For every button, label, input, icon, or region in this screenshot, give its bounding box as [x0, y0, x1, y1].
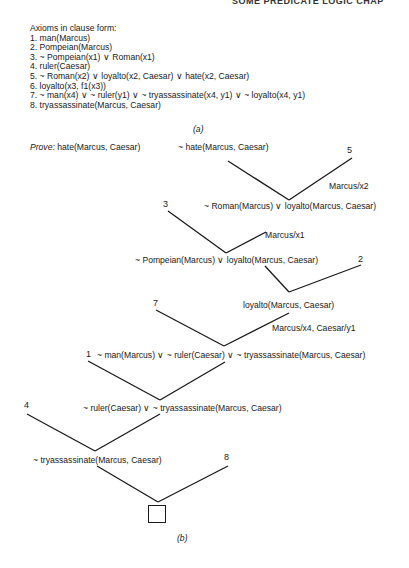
- caption-b: (b): [177, 533, 188, 543]
- node-step1: ~ Roman(Marcus) ∨ loyalto(Marcus, Caesar…: [204, 201, 376, 211]
- substitution-3: Marcus/x4, Caesar/y1: [272, 323, 356, 333]
- axiom-ref-2: 2: [358, 254, 363, 264]
- resolution-tree-edges: [0, 0, 409, 568]
- edge-ax7-to-step4: [156, 310, 224, 346]
- node-step4: ~ man(Marcus) ∨ ~ ruler(Caesar) ∨ ~ trya…: [97, 350, 365, 360]
- edge-ax1-to-step5: [88, 361, 160, 400]
- node-step2: ~ Pompeian(Marcus) ∨ loyalto(Marcus, Cae…: [135, 255, 318, 265]
- substitution-2: Marcus/x1: [265, 230, 305, 240]
- edge-step6-to-empty: [97, 466, 158, 502]
- edge-ax3-to-step2: [168, 211, 226, 253]
- axiom-ref-5: 5: [347, 145, 352, 155]
- axiom-ref-1: 1: [86, 349, 91, 359]
- edge-ax4-to-step6: [27, 414, 95, 451]
- axiom-ref-3: 3: [163, 199, 168, 209]
- edge-ax8-to-empty: [158, 466, 228, 502]
- node-step6: ~ tryassassinate(Marcus, Caesar): [33, 455, 162, 465]
- edge-step1-to-step2: [226, 232, 266, 253]
- edge-ax5-to-step1: [289, 158, 352, 200]
- substitution-1: Marcus/x2: [329, 181, 369, 191]
- node-negated-goal: ~ hate(Marcus, Caesar): [178, 142, 269, 152]
- axiom-ref-4: 4: [24, 400, 29, 410]
- node-step5: ~ ruler(Caesar) ∨ ~ tryassassinate(Marcu…: [83, 403, 282, 413]
- axiom-ref-8: 8: [224, 452, 229, 462]
- edge-step5-to-step6: [95, 414, 160, 451]
- edge-goal-to-step1: [228, 161, 289, 200]
- edge-step2-to-step3: [265, 266, 289, 292]
- empty-clause-box: [148, 505, 166, 523]
- edge-step4-to-step5: [160, 362, 225, 400]
- node-step3: loyalto(Marcus, Caesar): [243, 300, 334, 310]
- edge-ax2-to-step3: [289, 265, 361, 292]
- axiom-ref-7: 7: [153, 298, 158, 308]
